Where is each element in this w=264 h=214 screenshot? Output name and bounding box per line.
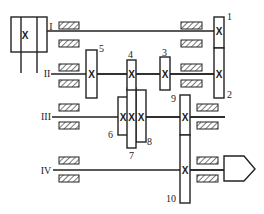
gear-label-2: 2 xyxy=(227,89,232,100)
gear-label-8: 8 xyxy=(147,136,152,147)
svg-text:X: X xyxy=(182,112,189,123)
gear-label-7: 7 xyxy=(129,150,134,161)
svg-text:X: X xyxy=(138,112,145,123)
svg-text:X: X xyxy=(216,26,223,37)
gear-label-10: 10 xyxy=(166,193,176,204)
shaft-label-II: II xyxy=(44,68,51,79)
gearbox-diagram: X X X X X X X X X X X I II III IV 1 2 3 … xyxy=(0,0,264,214)
shaft-label-IV: IV xyxy=(41,165,52,176)
svg-text:X: X xyxy=(120,112,127,123)
svg-text:X: X xyxy=(162,69,169,80)
gear-label-5: 5 xyxy=(99,43,104,54)
gear-label-4: 4 xyxy=(128,49,133,60)
gear-label-9: 9 xyxy=(171,93,176,104)
output-coupling xyxy=(224,156,255,181)
shaft-label-III: III xyxy=(41,111,51,122)
svg-text:X: X xyxy=(216,69,223,80)
svg-text:X: X xyxy=(22,30,29,41)
svg-text:X: X xyxy=(128,69,135,80)
gear-label-3: 3 xyxy=(162,47,167,58)
svg-text:X: X xyxy=(128,112,135,123)
gear-label-6: 6 xyxy=(108,129,113,140)
svg-text:X: X xyxy=(182,165,189,176)
svg-text:X: X xyxy=(88,69,95,80)
gear-label-1: 1 xyxy=(227,11,232,22)
input-clutch xyxy=(11,17,47,73)
shaft-label-I: I xyxy=(49,21,52,32)
